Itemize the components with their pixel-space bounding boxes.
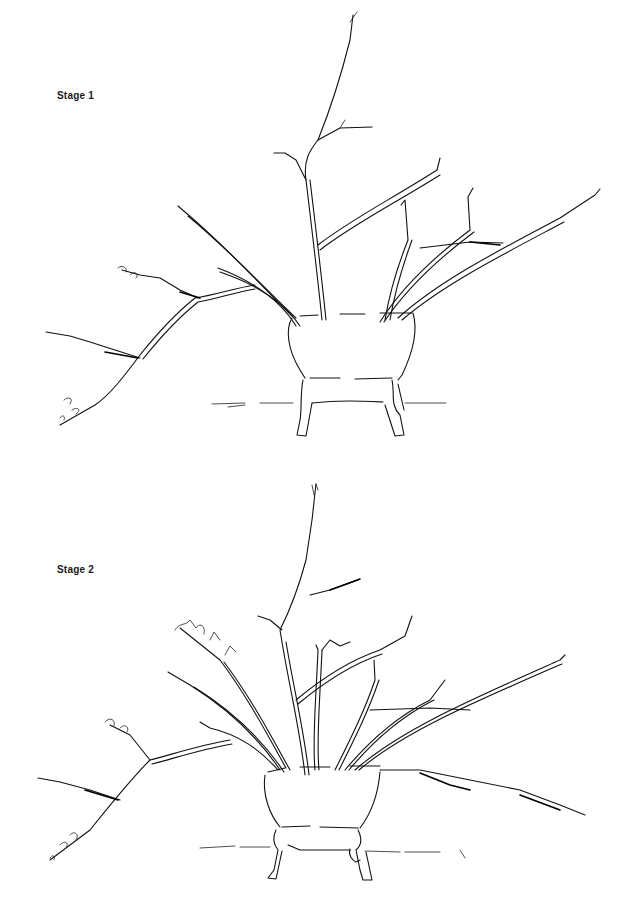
stage-2-arrangement bbox=[38, 484, 585, 880]
ikebana-illustration bbox=[0, 0, 629, 912]
stage-1-left-stems bbox=[46, 206, 300, 425]
stage-1-arrangement bbox=[46, 12, 600, 436]
stage-2-ground-line bbox=[200, 846, 465, 858]
stage-2-right-stems bbox=[335, 655, 585, 815]
stage-1-main-stem bbox=[274, 12, 372, 320]
stage-1-ground-line bbox=[212, 403, 446, 407]
stage-2-left-stems bbox=[38, 620, 290, 860]
stage-2-vase bbox=[264, 766, 380, 880]
stage-2-center-stems bbox=[296, 616, 412, 770]
stage-1-right-stems bbox=[318, 158, 600, 322]
stage-2-main-stem bbox=[258, 484, 360, 775]
stage-1-vase bbox=[288, 313, 415, 436]
